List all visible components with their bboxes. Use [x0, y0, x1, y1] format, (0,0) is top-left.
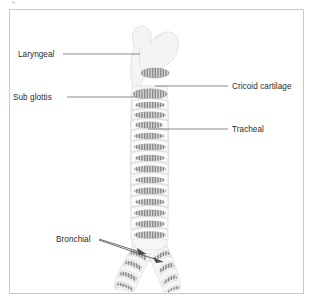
- tracheal-ring-band: [134, 209, 166, 216]
- tracheal-ring-band: [135, 221, 165, 228]
- tracheal-ring-band: [134, 144, 166, 151]
- tracheal-ring-band: [134, 133, 164, 139]
- label-bronchial: Bronchial: [56, 235, 91, 244]
- tracheal-ring-band: [135, 122, 163, 129]
- tracheal-ring-band: [134, 231, 166, 239]
- tracheal-ring-band: [135, 177, 165, 184]
- airway-anatomy-figure: Laryngeal Sub glottis Cricoid cartilage …: [0, 0, 313, 304]
- label-tracheal: Tracheal: [232, 125, 264, 134]
- scan-artifact: [12, 1, 15, 4]
- tracheal-ring-band: [134, 111, 166, 118]
- tracheal-ring-band: [134, 166, 166, 173]
- anatomy-illustration: Laryngeal Sub glottis Cricoid cartilage …: [0, 0, 313, 304]
- label-cricoid-cartilage: Cricoid cartilage: [232, 82, 292, 91]
- tracheal-ring-band: [134, 188, 166, 195]
- label-laryngeal: Laryngeal: [18, 50, 55, 59]
- label-sub-glottis: Sub glottis: [13, 93, 52, 102]
- tracheal-rings: [131, 99, 168, 240]
- tracheal-ring-band: [135, 199, 165, 206]
- tracheal-ring-band: [135, 155, 165, 162]
- tracheal-ring-band: [135, 102, 165, 109]
- trachea-group: [130, 86, 168, 250]
